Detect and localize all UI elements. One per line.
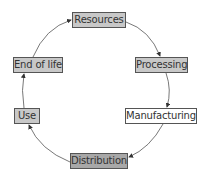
node-label: Use: [18, 110, 36, 121]
node-distribution: Distribution: [70, 153, 128, 169]
node-label: End of life: [14, 59, 62, 70]
node-use: Use: [14, 108, 40, 124]
node-resources: Resources: [72, 12, 126, 28]
node-label: Resources: [74, 14, 123, 25]
arrow-use-to-end-of-life: [23, 74, 25, 108]
node-end-of-life: End of life: [13, 57, 63, 73]
node-label: Distribution: [71, 155, 127, 166]
node-label: Manufacturing: [126, 110, 196, 121]
arrow-processing-to-manufacturing: [166, 73, 169, 107]
arrow-resources-to-processing: [126, 22, 160, 56]
node-manufacturing: Manufacturing: [125, 108, 197, 124]
node-label: Processing: [136, 59, 187, 70]
arrow-distribution-to-use: [29, 125, 70, 162]
arrow-manufacturing-to-distribution: [129, 124, 163, 157]
arrow-end-of-life-to-resources: [33, 20, 71, 57]
node-processing: Processing: [135, 57, 188, 73]
